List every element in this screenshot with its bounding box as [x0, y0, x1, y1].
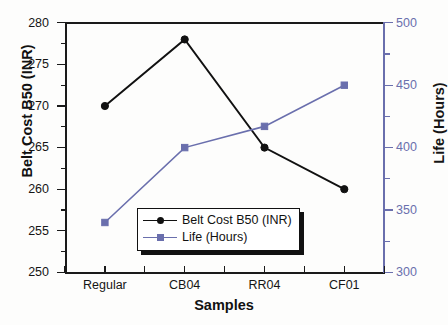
y-tick-left-minor: [61, 126, 66, 127]
y-tick-right: [385, 85, 393, 86]
y-axis-title-right: Life (Hours): [431, 43, 447, 203]
y-tick-right-minor: [385, 53, 390, 54]
y-tick-right: [385, 22, 393, 23]
y-tick-label-right: 450: [396, 79, 417, 92]
y-tick-right: [385, 147, 393, 148]
x-tick-boundary: [64, 266, 65, 273]
legend-marker-square-icon: [143, 231, 177, 245]
y-tick-label-right: 400: [396, 141, 417, 154]
y-tick-left: [57, 105, 65, 106]
y-tick-left: [57, 147, 65, 148]
x-tick-label: CF01: [329, 278, 360, 292]
x-tick-boundary: [144, 266, 145, 273]
chart-figure: 250255260265270275280300350400450500Regu…: [0, 0, 448, 325]
legend-item: Belt Cost B50 (INR): [143, 212, 292, 229]
y-tick-left-minor: [61, 209, 66, 210]
y-tick-left: [57, 230, 65, 231]
y-tick-label-right: 500: [396, 17, 417, 30]
x-tick-boundary: [304, 266, 305, 273]
legend-marker-circle-icon: [143, 214, 177, 228]
legend-item: Life (Hours): [143, 229, 292, 246]
y-tick-label-right: 300: [396, 266, 417, 279]
y-tick-left-minor: [61, 43, 66, 44]
x-tick-center: [104, 266, 105, 273]
legend: Belt Cost B50 (INR) Life (Hours): [137, 208, 300, 251]
legend-item-label: Belt Cost B50 (INR): [182, 214, 292, 227]
x-tick-center: [344, 266, 345, 273]
axis-left-line: [65, 22, 67, 273]
y-axis-title-left: Belt Cost B50 (INR): [19, 21, 35, 201]
y-tick-right: [385, 272, 393, 273]
y-tick-label-left: 250: [28, 266, 49, 279]
x-tick-center: [184, 266, 185, 273]
y-tick-left: [57, 64, 65, 65]
y-tick-left-minor: [61, 168, 66, 169]
x-tick-label: CB04: [169, 278, 200, 292]
y-tick-label-left: 255: [28, 225, 49, 238]
y-tick-right-minor: [385, 178, 390, 179]
x-tick-label: Regular: [83, 278, 127, 292]
x-axis-title: Samples: [0, 297, 448, 313]
x-tick-boundary: [384, 266, 385, 273]
y-tick-right: [385, 209, 393, 210]
y-tick-right-minor: [385, 116, 390, 117]
y-tick-left: [57, 22, 65, 23]
y-tick-left: [57, 189, 65, 190]
y-tick-left-minor: [61, 251, 66, 252]
y-tick-label-right: 350: [396, 204, 417, 217]
x-tick-boundary: [224, 266, 225, 273]
x-tick-label: RR04: [249, 278, 281, 292]
y-tick-right-minor: [385, 241, 390, 242]
legend-item-label: Life (Hours): [182, 231, 247, 244]
x-tick-center: [264, 266, 265, 273]
y-tick-left-minor: [61, 85, 66, 86]
axis-top-line: [65, 22, 385, 24]
